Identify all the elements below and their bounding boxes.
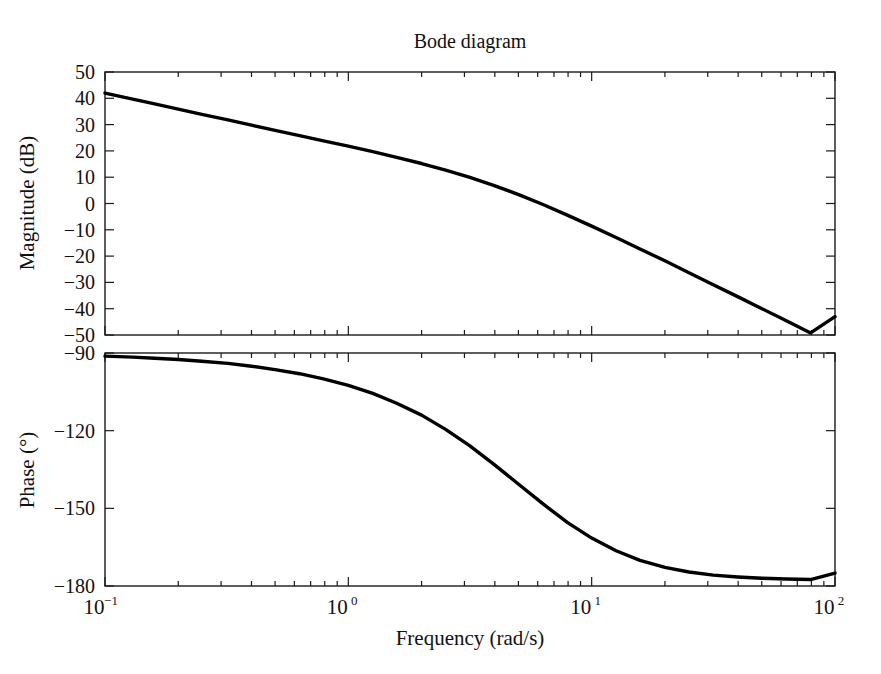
magnitude-ytick-label: 10 (75, 166, 95, 188)
figure-background (0, 0, 881, 674)
bode-figure: Bode diagram 50403020100−10−20−30−40−50 … (0, 0, 881, 674)
svg-text:10: 10 (570, 595, 591, 619)
magnitude-ytick-label: 20 (75, 140, 95, 162)
phase-ytick-label: −150 (54, 497, 95, 519)
svg-text:10: 10 (327, 595, 348, 619)
phase-ytick-label: −180 (54, 575, 95, 597)
phase-ytick-label: −90 (64, 342, 95, 364)
magnitude-ytick-label: −40 (64, 298, 95, 320)
svg-text:10: 10 (814, 595, 835, 619)
phase-ytick-label: −120 (54, 420, 95, 442)
magnitude-ytick-label: 40 (75, 87, 95, 109)
magnitude-ytick-label: 0 (85, 193, 95, 215)
magnitude-ytick-label: −30 (64, 271, 95, 293)
svg-text:0: 0 (351, 593, 358, 608)
magnitude-ytick-label: −10 (64, 219, 95, 241)
magnitude-ytick-label: −20 (64, 245, 95, 267)
magnitude-ytick-label: 30 (75, 114, 95, 136)
magnitude-ytick-label: 50 (75, 61, 95, 83)
svg-text:1: 1 (594, 593, 601, 608)
phase-yaxis-label: Phase (°) (15, 432, 39, 509)
svg-text:10: 10 (84, 595, 105, 619)
magnitude-yaxis-label: Magnitude (dB) (15, 136, 39, 271)
svg-text:2: 2 (838, 593, 845, 608)
chart-title: Bode diagram (414, 30, 527, 53)
xaxis-label: Frequency (rad/s) (396, 626, 545, 650)
svg-text:−1: −1 (104, 593, 118, 608)
bode-plot-svg: Bode diagram 50403020100−10−20−30−40−50 … (0, 0, 881, 674)
